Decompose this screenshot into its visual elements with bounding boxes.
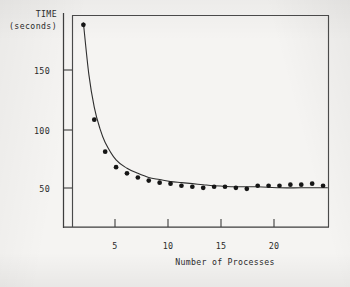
y-axis-title-line-2: (seconds) (9, 21, 57, 31)
y-tick-label-150: 150 (34, 66, 50, 76)
data-point (310, 181, 315, 186)
data-point (125, 171, 130, 176)
data-point (201, 185, 206, 190)
time-vs-processes-chart: 150 100 50 TIME (seconds) 5 10 15 20 Num… (0, 0, 350, 287)
data-point (255, 183, 260, 188)
y-axis-title: TIME (seconds) (9, 9, 57, 31)
data-point (288, 182, 293, 187)
data-point (81, 22, 86, 27)
y-axis-tick-labels: 150 100 50 (34, 66, 50, 194)
data-point (168, 181, 173, 186)
y-tick-label-100: 100 (34, 126, 50, 136)
data-point (136, 175, 141, 180)
y-axis-ticks (64, 70, 73, 188)
data-point (157, 180, 162, 185)
x-tick-label-20: 20 (269, 241, 280, 251)
data-point (277, 183, 282, 188)
data-point (179, 183, 184, 188)
x-axis-title: Number of Processes (175, 257, 274, 267)
data-point (114, 165, 119, 170)
data-point (146, 178, 151, 183)
data-point (321, 183, 326, 188)
y-tick-label-50: 50 (39, 184, 50, 194)
data-point (266, 183, 271, 188)
x-tick-label-10: 10 (163, 241, 174, 251)
data-point (299, 182, 304, 187)
x-axis-tick-labels: 5 10 15 20 (112, 241, 279, 251)
data-point (244, 186, 249, 191)
plot-frame (63, 13, 329, 228)
figure-container: 150 100 50 TIME (seconds) 5 10 15 20 Num… (0, 0, 350, 287)
data-point-group (81, 22, 325, 191)
x-tick-label-5: 5 (112, 241, 117, 251)
x-tick-label-15: 15 (216, 241, 227, 251)
data-point (223, 184, 228, 189)
data-point (190, 184, 195, 189)
data-point (103, 149, 108, 154)
data-point (234, 185, 239, 190)
y-axis-title-line-1: TIME (36, 9, 57, 19)
data-point (212, 184, 217, 189)
fitted-curve (83, 23, 327, 188)
data-point (92, 117, 97, 122)
x-axis-ticks (115, 219, 274, 227)
